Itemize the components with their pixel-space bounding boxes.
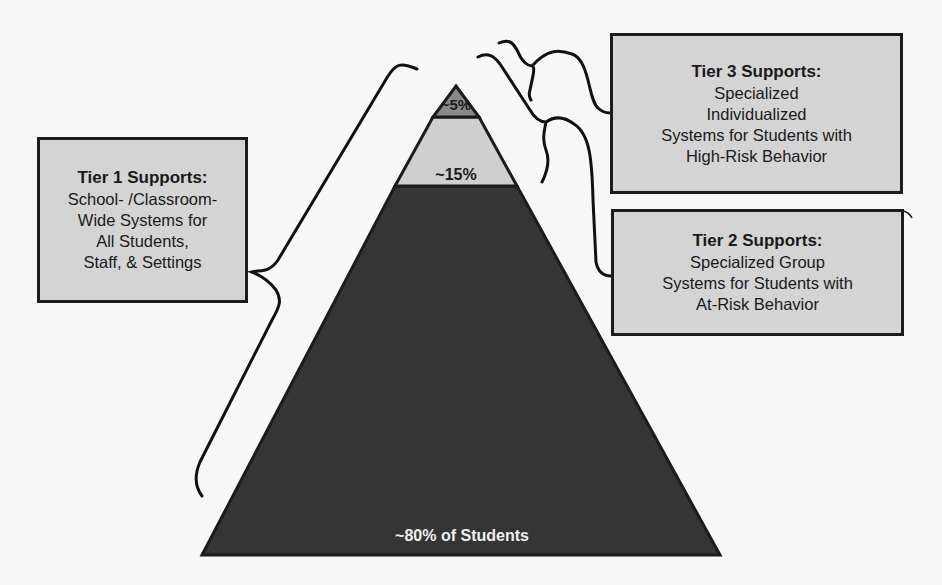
tier2-line: Specialized Group <box>690 252 825 273</box>
tier1-line: School- /Classroom- <box>68 189 217 210</box>
tier1-supports-box: Tier 1 Supports: School- /Classroom- Wid… <box>37 137 248 303</box>
tier2-line: At-Risk Behavior <box>696 294 819 315</box>
tier3-supports-box: Tier 3 Supports: Specialized Individuali… <box>610 33 903 194</box>
tier3-line: High-Risk Behavior <box>686 146 827 167</box>
tier3-line: Specialized <box>714 83 798 104</box>
tier3-line: Individualized <box>707 104 807 125</box>
tier1-line: Staff, & Settings <box>83 252 201 273</box>
tier1-title: Tier 1 Supports: <box>77 167 207 189</box>
tier1-line: All Students, <box>96 231 189 252</box>
tier3-line: Systems for Students with <box>661 125 852 146</box>
tier3-brace <box>499 41 610 113</box>
band-label-tier2: ~15% <box>435 166 476 183</box>
band-label-tier3: ~5% <box>441 96 471 113</box>
tier3-title: Tier 3 Supports: <box>691 61 821 83</box>
tier2-box-tick <box>903 211 912 218</box>
band-label-tier1: ~80% of Students <box>395 527 529 544</box>
tier2-title: Tier 2 Supports: <box>692 230 822 252</box>
tier1-line: Wide Systems for <box>78 210 207 231</box>
tier2-supports-box: Tier 2 Supports: Specialized Group Syste… <box>611 209 904 336</box>
tier2-line: Systems for Students with <box>662 273 853 294</box>
